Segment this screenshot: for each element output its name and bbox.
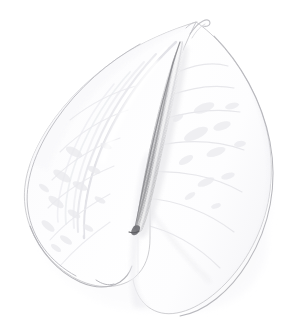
anthurium-illustration [0,0,294,335]
image-canvas: White anthurium spathe with pale texture… [0,0,294,335]
stem-hint [137,236,138,276]
